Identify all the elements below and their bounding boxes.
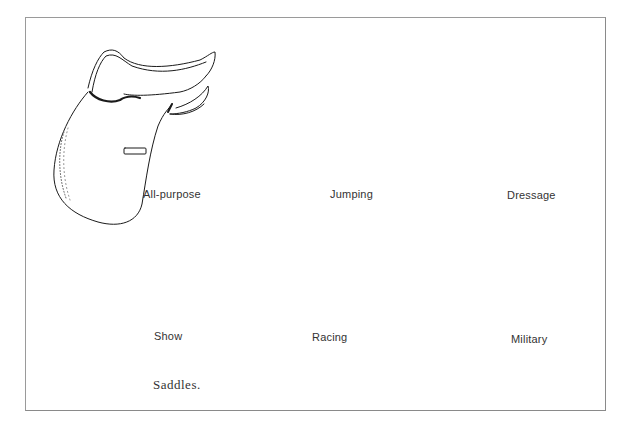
label-dressage: Dressage [507,189,556,201]
label-all-purpose: All-purpose [143,188,201,200]
label-show: Show [154,330,182,342]
label-jumping: Jumping [330,188,373,200]
label-racing: Racing [312,331,347,343]
figure-caption: Saddles. [153,377,201,393]
label-military: Military [511,333,547,345]
